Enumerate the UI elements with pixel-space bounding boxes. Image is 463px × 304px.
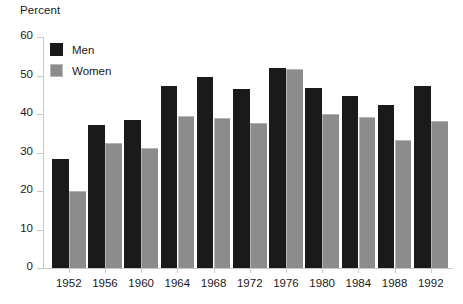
bar-women-1976 <box>286 69 303 268</box>
y-tick-mark <box>37 76 43 77</box>
y-axis-title: Percent <box>20 4 60 16</box>
bar-men-1988 <box>378 105 395 268</box>
y-tick-label: 30 <box>20 145 33 157</box>
chart-legend: MenWomen <box>50 41 111 83</box>
y-tick-label: 10 <box>20 222 33 234</box>
bar-men-1972 <box>233 89 250 268</box>
x-tick-label: 1992 <box>418 277 444 289</box>
x-tick-mark <box>286 268 287 273</box>
bar-women-1956 <box>105 143 122 268</box>
x-tick-mark <box>214 268 215 273</box>
x-tick-mark <box>250 268 251 273</box>
y-tick: 10 <box>37 230 43 231</box>
x-tick-label: 1976 <box>273 277 299 289</box>
y-tick: 40 <box>37 114 43 115</box>
bar-women-1968 <box>214 118 231 268</box>
y-tick: 20 <box>37 191 43 192</box>
x-tick-label: 1964 <box>165 277 191 289</box>
x-tick-mark <box>177 268 178 273</box>
x-tick-mark <box>105 268 106 273</box>
y-tick-label: 0 <box>27 260 33 272</box>
bar-women-1952 <box>69 191 86 268</box>
y-axis-line <box>43 37 44 268</box>
y-tick-label: 20 <box>20 183 33 195</box>
legend-item-label: Women <box>72 65 111 77</box>
y-tick-mark <box>37 37 43 38</box>
x-tick-mark <box>358 268 359 273</box>
legend-swatch-icon <box>50 43 63 56</box>
x-tick-label: 1952 <box>56 277 82 289</box>
bar-men-1956 <box>88 125 105 268</box>
legend-item-men: Men <box>50 41 111 58</box>
x-tick-label: 1984 <box>346 277 372 289</box>
bar-men-1992 <box>414 86 431 268</box>
bar-chart: Percent 0102030405060 195219561960196419… <box>0 0 463 304</box>
x-tick-label: 1968 <box>201 277 227 289</box>
y-tick-mark <box>37 153 43 154</box>
bar-women-1960 <box>141 148 158 268</box>
bar-women-1984 <box>359 117 376 268</box>
bar-women-1972 <box>250 123 267 268</box>
x-tick-label: 1980 <box>309 277 335 289</box>
bar-men-1952 <box>52 159 69 268</box>
x-tick-label: 1956 <box>92 277 118 289</box>
bar-men-1984 <box>342 96 359 268</box>
bar-women-1992 <box>431 121 448 268</box>
bar-women-1964 <box>178 116 195 268</box>
y-tick-label: 60 <box>20 29 33 41</box>
legend-swatch-icon <box>50 64 63 77</box>
y-tick: 50 <box>37 76 43 77</box>
x-tick-mark <box>395 268 396 273</box>
bar-men-1960 <box>124 120 141 268</box>
y-tick-mark <box>37 230 43 231</box>
x-tick-mark <box>69 268 70 273</box>
y-tick-mark <box>37 268 43 269</box>
x-tick-label: 1960 <box>128 277 154 289</box>
y-tick: 30 <box>37 153 43 154</box>
y-tick-label: 40 <box>20 106 33 118</box>
x-tick-label: 1972 <box>237 277 263 289</box>
bar-men-1980 <box>305 88 322 268</box>
bar-women-1988 <box>395 140 412 268</box>
x-tick-mark <box>431 268 432 273</box>
y-tick-label: 50 <box>20 68 33 80</box>
y-tick: 0 <box>37 268 43 269</box>
legend-item-women: Women <box>50 62 111 79</box>
legend-item-label: Men <box>72 44 94 56</box>
y-tick-mark <box>37 191 43 192</box>
x-tick-mark <box>322 268 323 273</box>
bar-men-1976 <box>269 68 286 268</box>
x-tick-label: 1988 <box>382 277 408 289</box>
bar-men-1964 <box>161 86 178 268</box>
y-tick-mark <box>37 114 43 115</box>
x-tick-mark <box>141 268 142 273</box>
y-tick: 60 <box>37 37 43 38</box>
bar-men-1968 <box>197 77 214 268</box>
bar-women-1980 <box>322 114 339 268</box>
